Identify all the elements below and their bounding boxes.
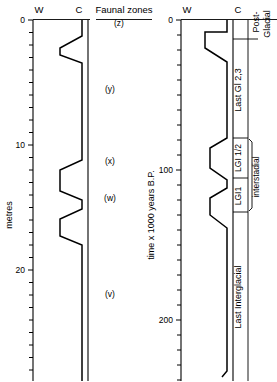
figure-root: W C Faunal zones bbox=[0, 0, 277, 382]
faunal-zone-z: (z) bbox=[114, 18, 124, 28]
left-climate-curve bbox=[60, 20, 82, 381]
left-tick-label-0: 0 bbox=[20, 15, 25, 25]
strat-label-interstadial: interstadial bbox=[251, 156, 261, 197]
right-axis-ticks bbox=[176, 20, 181, 380]
right-panel: W C bbox=[146, 4, 277, 381]
strat-label-lgi1: LGI1 bbox=[233, 187, 243, 206]
strat-label-post-glacial-line2: Glacial bbox=[262, 10, 272, 38]
left-axis-title: metres bbox=[4, 201, 14, 229]
strat-label-post-glacial-line1: Post- bbox=[251, 11, 261, 32]
left-panel: W C Faunal zones bbox=[4, 4, 153, 381]
right-warm-label: C bbox=[235, 4, 242, 15]
right-climate-curve bbox=[205, 20, 227, 377]
left-warm-label: C bbox=[76, 4, 83, 15]
paleoclimate-figure: W C Faunal zones bbox=[0, 0, 277, 382]
faunal-zone-y: (y) bbox=[105, 84, 115, 94]
left-tick-label-10: 10 bbox=[16, 140, 26, 150]
right-cold-label: W bbox=[183, 4, 192, 15]
faunal-zones-title: Faunal zones bbox=[95, 4, 152, 15]
right-axis-title: time x 1000 years B.P. bbox=[146, 170, 156, 259]
left-axis-ticks bbox=[28, 20, 33, 370]
right-tick-label-0: 0 bbox=[168, 15, 173, 25]
strat-label-last-interglacial: Last Interglacial bbox=[233, 265, 243, 328]
right-tick-label-100: 100 bbox=[159, 165, 173, 175]
left-cold-label: W bbox=[35, 4, 44, 15]
faunal-zone-x: (x) bbox=[105, 156, 115, 166]
faunal-zone-v: (v) bbox=[105, 289, 115, 299]
left-tick-label-20: 20 bbox=[16, 265, 26, 275]
right-tick-label-200: 200 bbox=[159, 315, 173, 325]
strat-label-last-gl-23: Last Gl 2,3 bbox=[233, 68, 243, 112]
faunal-zone-w: (w) bbox=[104, 193, 116, 203]
strat-label-lgi-1-2: LGI 1/2 bbox=[233, 144, 243, 172]
